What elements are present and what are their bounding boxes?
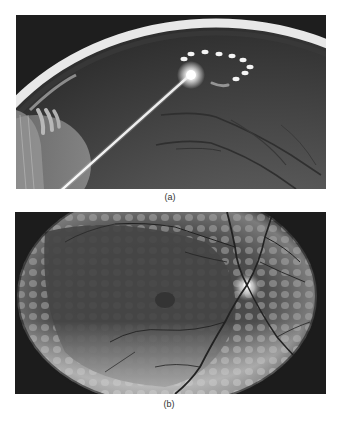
panel-b-caption: (b) [139,399,199,410]
panel-a-caption: (a) [140,192,200,203]
figure-panel-b-image [15,212,326,394]
eye-laser-illustration [16,15,326,189]
fundus-photograph [15,212,326,394]
figure-panel-a-image [16,15,326,189]
